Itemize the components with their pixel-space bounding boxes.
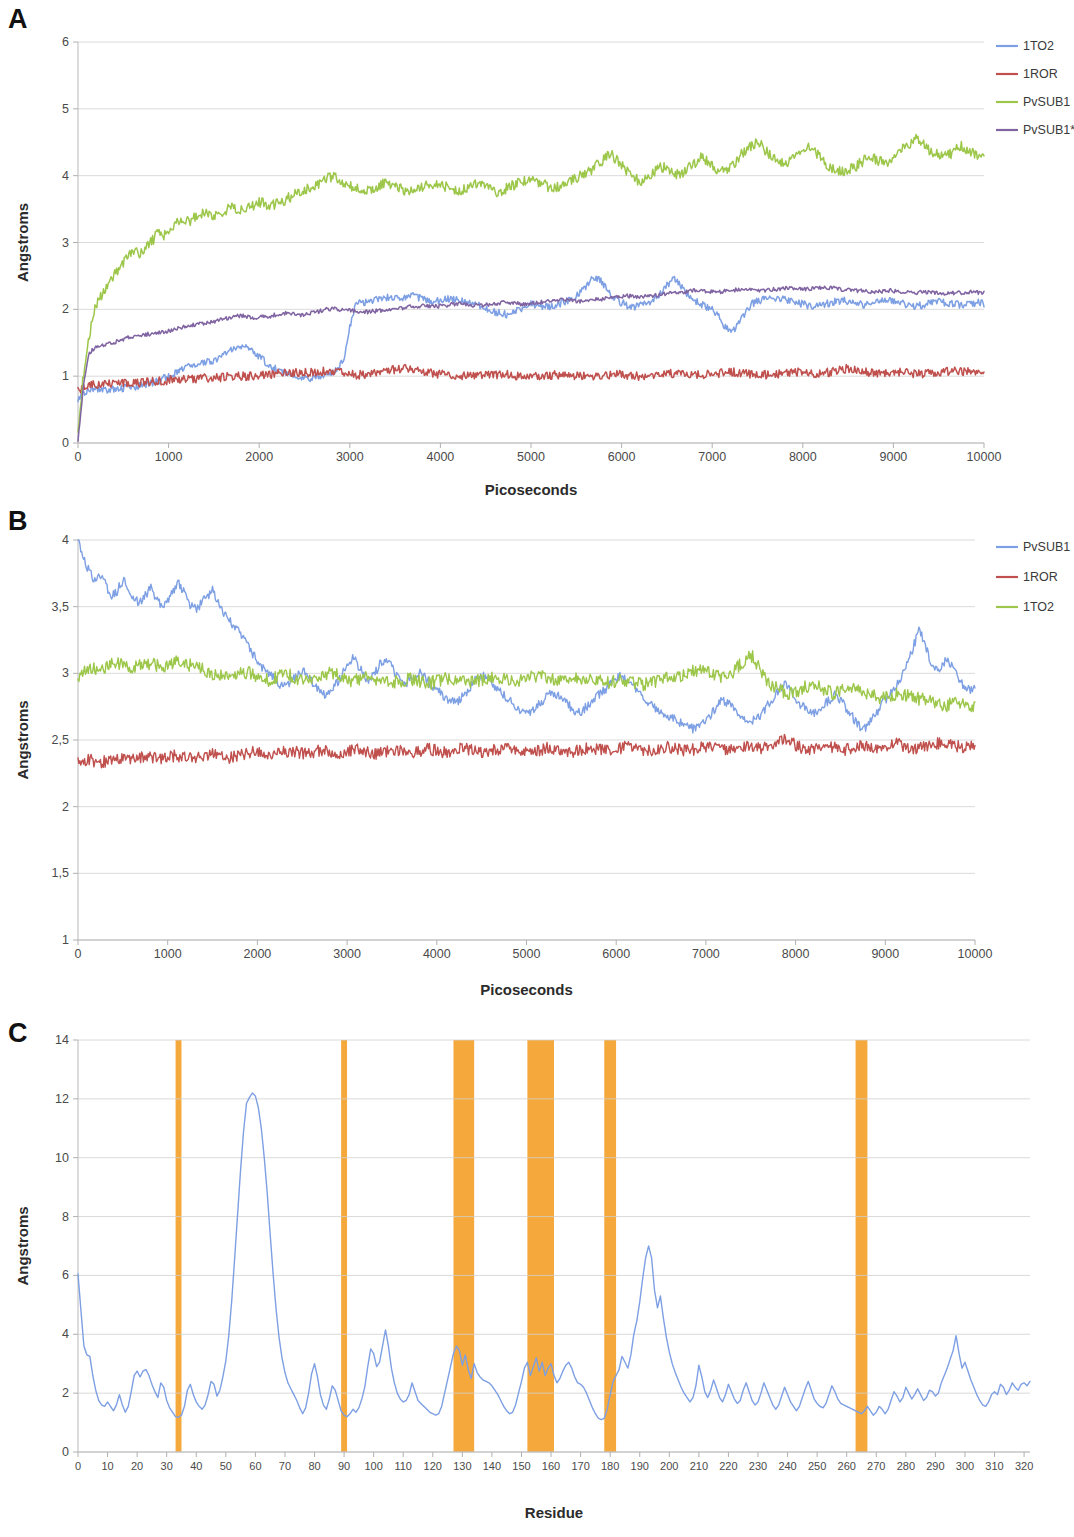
panel-c-chart: 0246810121401020304050607080901001101201…: [0, 1018, 1074, 1537]
trace-1ror: [78, 365, 984, 393]
highlight-band-3: [527, 1040, 554, 1452]
panel-a: A 01234560100020003000400050006000700080…: [0, 0, 1074, 512]
y-tick-label: 3: [62, 236, 69, 250]
trace-1to2: [78, 651, 975, 712]
panel-b: B 11,522,533,540100020003000400050006000…: [0, 505, 1074, 1020]
x-tick-label: 170: [571, 1460, 589, 1472]
y-tick-label: 2: [62, 302, 69, 316]
legend-label-1to2: 1TO2: [1023, 39, 1054, 53]
trace-pvsub1: [78, 540, 975, 733]
x-tick-label: 320: [1015, 1460, 1033, 1472]
y-tick-label: 10: [55, 1151, 69, 1165]
y-tick-label: 4: [62, 533, 69, 547]
trace-1to2: [78, 276, 984, 401]
y-tick-label: 3,5: [52, 600, 69, 614]
y-tick-label: 2,5: [52, 733, 69, 747]
x-tick-label: 210: [690, 1460, 708, 1472]
legend-label-pvsub1-: PvSUB1*: [1023, 123, 1074, 137]
x-tick-label: 110: [394, 1460, 412, 1472]
legend-label-1to2: 1TO2: [1023, 600, 1054, 614]
x-tick-label: 70: [279, 1460, 291, 1472]
x-tick-label: 220: [719, 1460, 737, 1472]
y-axis-title: Angstroms: [14, 203, 31, 282]
x-tick-label: 120: [424, 1460, 442, 1472]
x-tick-label: 180: [601, 1460, 619, 1472]
x-tick-label: 0: [75, 1460, 81, 1472]
x-tick-label: 280: [897, 1460, 915, 1472]
x-tick-label: 240: [778, 1460, 796, 1472]
x-tick-label: 6000: [602, 947, 630, 961]
x-tick-label: 310: [985, 1460, 1003, 1472]
x-tick-label: 290: [926, 1460, 944, 1472]
x-tick-label: 5000: [517, 450, 545, 464]
trace-1ror: [78, 734, 975, 767]
x-tick-label: 3000: [333, 947, 361, 961]
x-tick-label: 160: [542, 1460, 560, 1472]
x-tick-label: 10: [101, 1460, 113, 1472]
panel-a-letter: A: [8, 6, 28, 33]
x-tick-label: 100: [364, 1460, 382, 1472]
x-tick-label: 9000: [879, 450, 907, 464]
trace-pvsub1: [78, 134, 984, 432]
y-axis-title: Angstroms: [14, 700, 31, 779]
x-tick-label: 4000: [423, 947, 451, 961]
y-tick-label: 6: [62, 35, 69, 49]
x-tick-label: 8000: [789, 450, 817, 464]
x-tick-label: 5000: [513, 947, 541, 961]
x-tick-label: 190: [631, 1460, 649, 1472]
x-tick-label: 10000: [958, 947, 993, 961]
x-tick-label: 200: [660, 1460, 678, 1472]
y-tick-label: 1: [62, 369, 69, 383]
x-tick-label: 4000: [426, 450, 454, 464]
x-tick-label: 2000: [245, 450, 273, 464]
x-tick-label: 140: [483, 1460, 501, 1472]
x-tick-label: 230: [749, 1460, 767, 1472]
y-tick-label: 0: [62, 1445, 69, 1459]
y-axis-title: Angstroms: [14, 1206, 31, 1285]
x-axis-title: Picoseconds: [485, 481, 578, 498]
legend-label-1ror: 1ROR: [1023, 67, 1058, 81]
x-tick-label: 20: [131, 1460, 143, 1472]
x-tick-label: 90: [338, 1460, 350, 1472]
highlight-band-5: [856, 1040, 868, 1452]
y-tick-label: 1,5: [52, 866, 69, 880]
x-tick-label: 0: [75, 947, 82, 961]
y-tick-label: 0: [62, 436, 69, 450]
y-tick-label: 4: [62, 1327, 69, 1341]
panel-b-letter: B: [8, 508, 28, 535]
x-tick-label: 1000: [155, 450, 183, 464]
x-tick-label: 60: [249, 1460, 261, 1472]
y-tick-label: 6: [62, 1268, 69, 1282]
x-tick-label: 3000: [336, 450, 364, 464]
figure-page: A 01234560100020003000400050006000700080…: [0, 0, 1074, 1537]
x-tick-label: 270: [867, 1460, 885, 1472]
x-tick-label: 8000: [782, 947, 810, 961]
x-tick-label: 150: [512, 1460, 530, 1472]
legend-label-1ror: 1ROR: [1023, 570, 1058, 584]
y-tick-label: 2: [62, 1386, 69, 1400]
panel-a-chart: 0123456010002000300040005000600070008000…: [0, 0, 1074, 512]
x-tick-label: 9000: [871, 947, 899, 961]
x-tick-label: 130: [453, 1460, 471, 1472]
y-tick-label: 3: [62, 666, 69, 680]
y-tick-label: 14: [55, 1033, 69, 1047]
y-tick-label: 5: [62, 102, 69, 116]
x-tick-label: 7000: [698, 450, 726, 464]
x-tick-label: 1000: [154, 947, 182, 961]
y-tick-label: 8: [62, 1210, 69, 1224]
x-tick-label: 250: [808, 1460, 826, 1472]
highlight-band-4: [604, 1040, 616, 1452]
y-tick-label: 4: [62, 169, 69, 183]
x-axis-title: Residue: [525, 1504, 583, 1521]
x-tick-label: 2000: [243, 947, 271, 961]
x-tick-label: 30: [161, 1460, 173, 1472]
legend-label-pvsub1: PvSUB1: [1023, 540, 1070, 554]
highlight-band-1: [341, 1040, 347, 1452]
x-axis-title: Picoseconds: [480, 981, 573, 998]
panel-c-letter: C: [8, 1020, 28, 1047]
x-tick-label: 260: [838, 1460, 856, 1472]
x-tick-label: 7000: [692, 947, 720, 961]
panel-b-chart: 11,522,533,54010002000300040005000600070…: [0, 505, 1074, 1020]
x-tick-label: 0: [75, 450, 82, 464]
x-tick-label: 50: [220, 1460, 232, 1472]
